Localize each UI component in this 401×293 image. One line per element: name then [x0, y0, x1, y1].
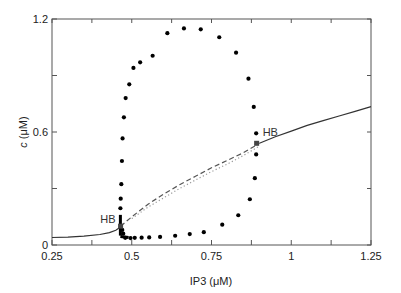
y-axis-label-unit: (μM) [17, 116, 29, 142]
hopf-point-marker [118, 224, 123, 229]
x-axis-label: IP3 (μM) [190, 275, 232, 287]
stable-branch-line [52, 226, 121, 237]
orbit-dot [140, 236, 144, 240]
plot-area-border [52, 19, 371, 245]
orbit-dot [119, 197, 123, 201]
orbit-dot [254, 131, 258, 135]
hopf-bifurcation-annotations: HBHB [100, 126, 278, 228]
orbit-dot [248, 197, 252, 201]
x-tick-label: 0.75 [201, 250, 222, 262]
periodic-orbit-dots [118, 26, 258, 240]
hopf-point-marker [254, 141, 259, 146]
orbit-dot [120, 159, 124, 163]
orbit-dot [119, 182, 123, 186]
orbit-dot [147, 235, 151, 239]
orbit-dot [138, 60, 142, 64]
orbit-dot [246, 77, 250, 81]
bifurcation-chart: 0.250.50.7511.25 00.61.2 HBHB IP3 (μM) c… [0, 0, 401, 293]
y-tick-label: 1.2 [33, 13, 48, 25]
orbit-dot [122, 115, 126, 119]
orbit-dot [127, 82, 131, 86]
orbit-dot [254, 152, 258, 156]
x-tick-label: 1 [288, 250, 294, 262]
y-axis-ticks: 00.61.2 [33, 13, 371, 251]
orbit-dot [131, 66, 135, 70]
orbit-dot [151, 54, 155, 58]
unstable-orbit-dotted-line [132, 146, 260, 219]
x-tick-label: 0.25 [41, 250, 62, 262]
orbit-dot [118, 206, 122, 210]
orbit-dot [234, 51, 238, 55]
orbit-dot [124, 96, 128, 100]
hopf-bifurcation-label: HB [100, 213, 115, 225]
orbit-dot [182, 26, 186, 30]
x-tick-label: 1.25 [360, 250, 381, 262]
orbit-dot [220, 223, 224, 227]
orbit-dot [236, 213, 240, 217]
y-tick-label: 0 [42, 239, 48, 251]
orbit-dot [158, 235, 162, 239]
hopf-bifurcation-label: HB [263, 126, 278, 138]
plot-frame [52, 19, 371, 245]
orbit-dot [253, 176, 257, 180]
orbit-dot [188, 232, 192, 236]
orbit-dot [120, 136, 124, 140]
orbit-dot [202, 230, 206, 234]
orbit-dot [173, 234, 177, 238]
dense-orbit-cluster-horizontal [120, 237, 128, 238]
orbit-dot [252, 105, 256, 109]
orbit-dot [128, 236, 132, 240]
x-axis-ticks: 0.250.50.7511.25 [41, 19, 381, 262]
y-tick-label: 0.6 [33, 126, 48, 138]
x-tick-label: 0.5 [124, 250, 139, 262]
orbit-dot [165, 31, 169, 35]
y-axis-label: c (μM) [17, 116, 29, 147]
orbit-dot [217, 35, 221, 39]
orbit-dot [133, 236, 137, 240]
orbit-dot [199, 27, 203, 31]
